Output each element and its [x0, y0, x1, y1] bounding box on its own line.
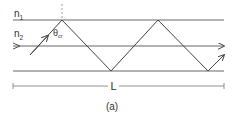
light-ray-exit — [208, 55, 224, 71]
fiber-diagram: n1 n2 θcr L (a) — [0, 0, 237, 129]
n1-label: n1 — [14, 8, 24, 21]
incoming-ray-arrow — [30, 36, 48, 56]
figure-caption: (a) — [106, 101, 118, 112]
length-label: L — [110, 80, 116, 92]
critical-angle-label: θcr — [53, 28, 63, 39]
n2-label: n2 — [14, 28, 24, 41]
